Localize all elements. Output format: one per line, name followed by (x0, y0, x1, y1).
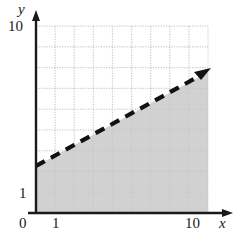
x-tick-label-1: 1 (52, 216, 60, 231)
x-tick-label-10: 10 (185, 216, 200, 231)
y-tick-label-1: 1 (19, 186, 27, 201)
chart-figure: y x 10 1 0 1 10 (0, 0, 236, 237)
chart-canvas (0, 0, 236, 237)
minor-gridlines (36, 26, 208, 213)
y-axis-label: y (18, 2, 25, 17)
x-tick-label-0: 0 (19, 216, 27, 231)
y-axis-arrowhead (32, 10, 40, 21)
x-axis-label: x (219, 216, 226, 231)
y-tick-label-10: 10 (8, 19, 23, 34)
